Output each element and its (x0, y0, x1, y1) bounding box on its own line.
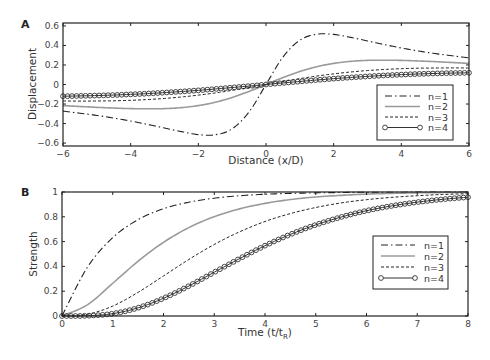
xlabel-main: Time (t/t (237, 326, 283, 338)
panel-b-chart: B 01234567800.20.40.60.81 Time (t/tR) St… (21, 186, 471, 341)
y-tick-label: 0.6 (44, 237, 59, 247)
y-tick-label: 0.8 (44, 212, 59, 222)
legend-label: n=3 (428, 112, 448, 123)
panel-a-ylabel: Displacement (26, 48, 38, 120)
panel-a-letter: A (21, 18, 30, 31)
x-tick-label: −2 (192, 149, 205, 159)
y-tick-label: 0.4 (45, 40, 60, 50)
panel-a-xlabel: Distance (x/D) (228, 154, 303, 166)
panel-a-legend: n=1n=2n=3n=4 (377, 85, 453, 140)
y-tick-label: −0.4 (37, 119, 59, 129)
x-tick-label: 5 (313, 319, 319, 329)
x-tick-label: 2 (161, 319, 167, 329)
x-tick-label: −4 (124, 149, 138, 159)
panel-b-letter: B (21, 186, 29, 199)
x-tick-label: 2 (331, 149, 337, 159)
legend-label: n=2 (424, 251, 444, 262)
x-tick-label: 4 (398, 149, 404, 159)
legend-label: n=4 (428, 122, 448, 133)
legend-label: n=1 (424, 240, 444, 251)
x-tick-label: 8 (465, 319, 471, 329)
y-tick-label: 0.6 (45, 21, 60, 31)
legend-label: n=3 (424, 262, 444, 273)
legend-label: n=1 (428, 91, 448, 102)
x-tick-label: 0 (59, 319, 65, 329)
legend-label: n=2 (428, 101, 448, 112)
y-tick-label: −0.2 (37, 99, 59, 109)
x-tick-label: 6 (364, 319, 370, 329)
x-tick-label: −6 (56, 149, 70, 159)
panel-b-ylabel: Strength (27, 231, 39, 276)
legend-label: n=4 (424, 273, 444, 284)
y-tick-label: −0.6 (37, 138, 59, 148)
x-tick-label: 1 (110, 319, 116, 329)
panel-b-legend: n=1n=2n=3n=4 (373, 236, 448, 289)
x-tick-label: 6 (466, 149, 472, 159)
y-tick-label: 0.2 (44, 286, 58, 296)
y-tick-label: 1 (52, 187, 58, 197)
y-tick-label: 0.2 (45, 60, 59, 70)
x-tick-label: 7 (414, 319, 420, 329)
y-tick-label: 0 (53, 80, 59, 90)
x-tick-label: 3 (211, 319, 217, 329)
xlabel-end: ) (288, 326, 292, 338)
y-tick-label: 0 (52, 311, 58, 321)
figure: A −6−4−20246−0.6−0.4−0.200.20.40.6 Dista… (0, 0, 490, 360)
y-tick-label: 0.4 (44, 261, 59, 271)
panel-a-chart: A −6−4−20246−0.6−0.4−0.200.20.40.6 Dista… (21, 18, 472, 166)
panel-b-xlabel: Time (t/tR) (237, 326, 292, 341)
